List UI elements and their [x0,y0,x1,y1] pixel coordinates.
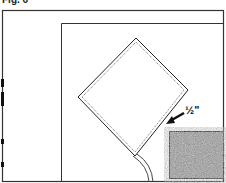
diamond-seam [82,42,184,152]
stem-curve [133,156,149,182]
measurement-label: ½" [185,104,199,116]
diagram-canvas [0,0,226,183]
fabric-swatch-texture [170,132,223,178]
